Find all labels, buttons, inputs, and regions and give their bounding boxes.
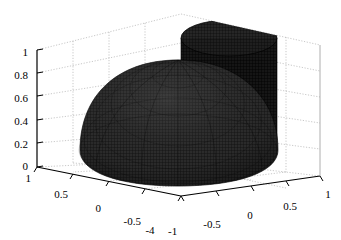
x-tick-label: 0 [247,210,253,221]
y-tick-label: 1 [26,173,32,184]
y-tick-label: 0.5 [54,189,68,200]
x-tick-label: 0.5 [283,201,297,212]
figure-canvas: 1 0.8 0.6 0.4 0.2 0 1 0.5 0 -0.5 -1 -0.5… [0,0,341,240]
z-tick-label: 0.2 [14,139,28,150]
y-tick-label: 0 [96,203,102,214]
y-tick-label: -1 [168,226,177,237]
exponent-annotation-label: -4 [145,225,154,236]
z-tick-label: 0 [23,161,29,172]
z-tick-label: 1 [23,47,29,58]
x-tick-label: 1 [325,189,331,200]
z-tick-label: 0.6 [14,93,28,104]
z-tick-label: 0.4 [14,116,28,127]
z-tick-label: 0.8 [14,70,28,81]
y-tick-label: -0.5 [124,216,141,227]
x-tick-label: -0.5 [203,219,220,230]
